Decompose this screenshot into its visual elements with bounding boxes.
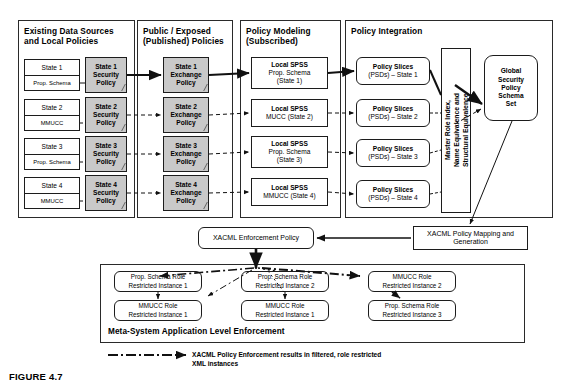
meta-system-enforcement-title: Meta-System Application Level Enforcemen… — [108, 327, 408, 337]
global-security-policy-schema-set: Global Security Policy Schema Set — [484, 55, 538, 121]
role-instance-box-6: Prop. Schema Role Restricted Instance 3 — [368, 300, 456, 321]
xacml-policy-mapping-box: XACML Policy Mapping and Generation — [413, 226, 528, 250]
role-instance-box-5: MMUCC Role Restricted Instance 1 — [241, 300, 329, 321]
panel-existing-title: Existing Data Sources and Local Policies — [24, 26, 132, 46]
data-source-box-1: State 1 Prop. Schema — [24, 59, 80, 91]
local-spss-title: Local SPSS — [271, 184, 308, 192]
local-spss-box-3: Local SPSS Prop. Schema (State 3) — [251, 136, 328, 168]
local-spss-box-2: Local SPSS MUCC (State 2) — [251, 99, 328, 127]
master-role-index-label: Master Role Index, Name Equivalence and … — [443, 93, 470, 167]
data-source-box-2: State 2 MMUCC — [24, 99, 80, 131]
local-spss-detail: Prop. Schema (State 1) — [269, 69, 311, 85]
policy-slices-detail: (PSDs) – State 1 — [368, 71, 417, 79]
data-source-schema-label: Prop. Schema — [25, 155, 79, 170]
role-instance-box-3: MMUCC Role Restricted Instance 2 — [368, 271, 456, 292]
local-spss-detail: MUCC (State 2) — [266, 113, 313, 121]
local-spss-box-1: Local SPSS Prop. Schema (State 1) — [251, 57, 328, 89]
policy-slices-title: Policy Slices — [373, 105, 413, 113]
security-policy-box-2: State 2 Security Policy — [85, 97, 127, 133]
local-spss-title: Local SPSS — [271, 140, 308, 148]
panel-integration-title: Policy Integration — [351, 26, 471, 36]
master-role-index-box: Master Role Index, Name Equivalence and … — [441, 48, 471, 213]
local-spss-detail: Prop. Schema (State 3) — [269, 148, 311, 164]
local-spss-detail: MMUCC (State 4) — [263, 192, 315, 200]
security-policy-box-4: State 4 Security Policy — [85, 175, 127, 211]
data-source-schema-label: MMUCC — [25, 194, 79, 209]
data-source-state-label: State 3 — [25, 139, 79, 155]
policy-slices-detail: (PSDs) – State 4 — [368, 194, 417, 202]
policy-slices-title: Policy Slices — [373, 186, 413, 194]
data-source-box-3: State 3 Prop. Schema — [24, 138, 80, 170]
document-fold-icon — [114, 84, 126, 91]
security-policy-box-1: State 1 Security Policy — [85, 57, 127, 93]
document-fold-icon — [196, 163, 208, 170]
document-fold-icon — [114, 163, 126, 170]
data-source-box-4: State 4 MMUCC — [24, 177, 80, 209]
data-source-schema-label: Prop. Schema — [25, 76, 79, 91]
data-source-state-label: State 1 — [25, 60, 79, 76]
document-fold-icon — [114, 202, 126, 209]
role-instance-box-2: Prop. Schema Role Restricted Instance 2 — [241, 271, 329, 292]
policy-slices-box-3: Policy Slices (PSDs) – State 3 — [356, 139, 430, 167]
document-fold-icon — [114, 124, 126, 131]
policy-slices-detail: (PSDs) – State 3 — [368, 153, 417, 161]
document-fold-icon — [196, 202, 208, 209]
role-instance-box-4: MMUCC Role Restricted Instance 1 — [114, 300, 202, 321]
data-source-schema-label: MMUCC — [25, 116, 79, 131]
exchange-policy-box-1: State 1 Exchange Policy — [163, 57, 209, 93]
figure-diagram: Existing Data Sources and Local Policies… — [0, 0, 561, 388]
policy-slices-title: Policy Slices — [373, 63, 413, 71]
panel-public-title: Public / Exposed (Published) Policies — [143, 26, 233, 46]
panel-modeling-title: Policy Modeling (Subscribed) — [246, 26, 340, 46]
policy-slices-detail: (PSDs) – State 2 — [368, 113, 417, 121]
policy-slices-title: Policy Slices — [373, 145, 413, 153]
exchange-policy-box-4: State 4 Exchange Policy — [163, 175, 209, 211]
exchange-policy-box-3: State 3 Exchange Policy — [163, 136, 209, 172]
role-instance-box-1: Prop. Schema Role Restricted Instance 1 — [114, 271, 202, 292]
document-fold-icon — [196, 84, 208, 91]
document-fold-icon — [196, 124, 208, 131]
local-spss-title: Local SPSS — [271, 61, 308, 69]
security-policy-box-3: State 3 Security Policy — [85, 136, 127, 172]
exchange-policy-box-2: State 2 Exchange Policy — [163, 97, 209, 133]
policy-slices-box-1: Policy Slices (PSDs) – State 1 — [356, 57, 430, 85]
legend-label: XACML Policy Enforcement results in filt… — [192, 351, 492, 368]
data-source-state-label: State 2 — [25, 100, 79, 116]
data-source-state-label: State 4 — [25, 178, 79, 194]
local-spss-title: Local SPSS — [271, 105, 308, 113]
policy-slices-box-2: Policy Slices (PSDs) – State 2 — [356, 99, 430, 127]
figure-caption: FIGURE 4.7 — [9, 371, 63, 382]
policy-slices-box-4: Policy Slices (PSDs) – State 4 — [356, 180, 430, 208]
xacml-enforcement-policy-box: XACML Enforcement Policy — [198, 227, 314, 249]
local-spss-box-4: Local SPSS MMUCC (State 4) — [251, 178, 328, 206]
